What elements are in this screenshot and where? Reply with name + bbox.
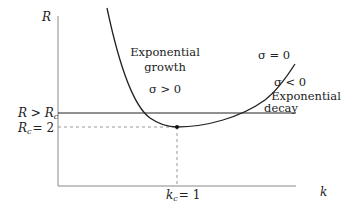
critical-k-label: kc= 1 bbox=[166, 188, 200, 203]
growth-title-line2: growth bbox=[144, 60, 186, 74]
growth-title-line1: Exponential bbox=[130, 45, 200, 59]
critical-R-label: Rc= 2 bbox=[17, 121, 54, 136]
decay-condition: σ < 0 bbox=[274, 75, 306, 89]
upper-level-label: R > Rc bbox=[17, 106, 59, 121]
decay-title-line2: decay bbox=[264, 101, 298, 115]
neutral-condition: σ = 0 bbox=[258, 48, 290, 62]
y-axis-label: R bbox=[41, 10, 51, 24]
x-axis-label: k bbox=[320, 185, 327, 199]
growth-condition: σ > 0 bbox=[149, 82, 181, 96]
critical-point bbox=[175, 125, 179, 129]
stability-diagram: R k Exponential growth σ > 0 σ = 0 σ < 0… bbox=[0, 0, 350, 211]
